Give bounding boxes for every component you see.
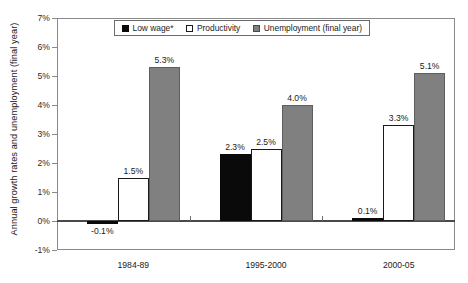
bar-unemployment xyxy=(149,67,180,221)
bar-value-label: 5.1% xyxy=(404,61,455,71)
x-axis-label: 1995-2000 xyxy=(216,260,316,270)
y-tick-label: 4% xyxy=(0,100,57,110)
y-tick-label: 7% xyxy=(0,13,57,23)
y-tick-label: 1% xyxy=(0,187,57,197)
legend-label: Low wage* xyxy=(133,23,174,33)
x-axis-label: 1984-89 xyxy=(83,260,183,270)
legend-label: Productivity xyxy=(197,23,240,33)
legend-item: Unemployment (final year) xyxy=(253,23,362,33)
bar-productivity xyxy=(251,149,282,222)
bar-low-wage xyxy=(352,218,383,221)
y-tick-label: 6% xyxy=(0,42,57,52)
y-tick-label: -1% xyxy=(0,245,57,255)
y-tick-mark xyxy=(52,18,57,19)
bar-productivity xyxy=(118,178,149,222)
bar-low-wage xyxy=(87,221,118,224)
y-tick-mark xyxy=(52,134,57,135)
legend-swatch-unemployment xyxy=(253,25,260,32)
legend-item: Low wage* xyxy=(122,23,173,33)
bar-value-label: 5.3% xyxy=(139,55,190,65)
y-tick-mark xyxy=(52,47,57,48)
y-tick-mark xyxy=(52,163,57,164)
zero-line-tick xyxy=(322,216,323,221)
bar-chart: Annual growth rates and unemployment (fi… xyxy=(0,0,468,283)
zero-line-tick xyxy=(190,216,191,221)
bar-value-label: 0.1% xyxy=(342,206,393,216)
bar-value-label: 4.0% xyxy=(272,93,323,103)
bar-value-label: 3.3% xyxy=(373,113,424,123)
bar-value-label: 1.5% xyxy=(108,166,159,176)
legend-swatch-productivity xyxy=(186,25,193,32)
y-tick-label: 5% xyxy=(0,71,57,81)
y-tick-mark xyxy=(52,250,57,251)
y-tick-mark xyxy=(52,192,57,193)
bar-value-label: 2.5% xyxy=(241,137,292,147)
y-tick-label: 0% xyxy=(0,216,57,226)
bar-unemployment xyxy=(282,105,313,221)
legend-swatch-low-wage xyxy=(122,25,129,32)
bar-value-label: -0.1% xyxy=(77,226,128,236)
x-axis-label: 2000-05 xyxy=(349,260,449,270)
bar-unemployment xyxy=(414,73,445,221)
chart-legend: Low wage*ProductivityUnemployment (final… xyxy=(114,20,370,36)
y-tick-label: 2% xyxy=(0,158,57,168)
y-tick-label: 3% xyxy=(0,129,57,139)
legend-label: Unemployment (final year) xyxy=(264,23,362,33)
legend-item: Productivity xyxy=(186,23,240,33)
bar-low-wage xyxy=(220,154,251,221)
y-tick-mark xyxy=(52,76,57,77)
y-tick-mark xyxy=(52,105,57,106)
